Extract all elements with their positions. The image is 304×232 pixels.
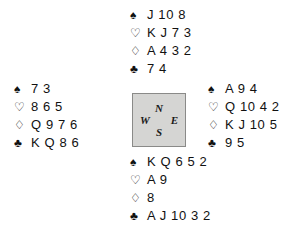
diamond-icon: ♢ — [130, 189, 143, 207]
spade-icon: ♠ — [14, 80, 27, 98]
diamond-icon: ♢ — [208, 116, 221, 134]
heart-icon: ♡ — [208, 98, 221, 116]
north-diamonds-row: ♢ A 4 3 2 — [130, 42, 192, 60]
west-diamonds-cards: Q 9 7 6 — [27, 116, 78, 134]
south-clubs-cards: A J 10 3 2 — [143, 207, 211, 225]
south-diamonds-row: ♢ 8 — [130, 189, 211, 207]
compass-box: N W E S — [132, 93, 186, 147]
west-diamonds-row: ♢ Q 9 7 6 — [14, 116, 79, 134]
south-hearts-cards: A 9 — [143, 171, 168, 189]
east-hearts-row: ♡ Q 10 4 2 — [208, 98, 280, 116]
north-hearts-row: ♡ K J 7 3 — [130, 24, 192, 42]
hand-east: ♠ A 9 4 ♡ Q 10 4 2 ♢ K J 10 5 ♣ 9 5 — [208, 80, 280, 152]
south-clubs-row: ♣ A J 10 3 2 — [130, 207, 211, 225]
compass-north-label: N — [133, 103, 185, 114]
north-clubs-cards: 7 4 — [143, 60, 167, 78]
club-icon: ♣ — [130, 60, 143, 78]
spade-icon: ♠ — [208, 80, 221, 98]
club-icon: ♣ — [130, 207, 143, 225]
south-spades-row: ♠ K Q 6 5 2 — [130, 153, 211, 171]
diamond-icon: ♢ — [14, 116, 27, 134]
hand-south: ♠ K Q 6 5 2 ♡ A 9 ♢ 8 ♣ A J 10 3 2 — [130, 153, 211, 225]
west-clubs-row: ♣ K Q 8 6 — [14, 134, 79, 152]
east-spades-row: ♠ A 9 4 — [208, 80, 280, 98]
west-spades-cards: 7 3 — [27, 80, 51, 98]
west-hearts-row: ♡ 8 6 5 — [14, 98, 79, 116]
compass-south-label: S — [133, 127, 185, 138]
diamond-icon: ♢ — [130, 42, 143, 60]
compass-east-label: E — [171, 115, 178, 126]
south-hearts-row: ♡ A 9 — [130, 171, 211, 189]
club-icon: ♣ — [14, 134, 27, 152]
east-diamonds-cards: K J 10 5 — [221, 116, 278, 134]
north-spades-row: ♠ J 10 8 — [130, 6, 192, 24]
east-spades-cards: A 9 4 — [221, 80, 258, 98]
club-icon: ♣ — [208, 134, 221, 152]
heart-icon: ♡ — [130, 171, 143, 189]
south-spades-cards: K Q 6 5 2 — [143, 153, 207, 171]
hand-north: ♠ J 10 8 ♡ K J 7 3 ♢ A 4 3 2 ♣ 7 4 — [130, 6, 192, 78]
north-spades-cards: J 10 8 — [143, 6, 186, 24]
east-clubs-cards: 9 5 — [221, 134, 245, 152]
heart-icon: ♡ — [14, 98, 27, 116]
north-diamonds-cards: A 4 3 2 — [143, 42, 192, 60]
heart-icon: ♡ — [130, 24, 143, 42]
hand-west: ♠ 7 3 ♡ 8 6 5 ♢ Q 9 7 6 ♣ K Q 8 6 — [14, 80, 79, 152]
east-hearts-cards: Q 10 4 2 — [221, 98, 280, 116]
west-hearts-cards: 8 6 5 — [27, 98, 63, 116]
spade-icon: ♠ — [130, 6, 143, 24]
west-spades-row: ♠ 7 3 — [14, 80, 79, 98]
west-clubs-cards: K Q 8 6 — [27, 134, 79, 152]
north-hearts-cards: K J 7 3 — [143, 24, 192, 42]
north-clubs-row: ♣ 7 4 — [130, 60, 192, 78]
east-diamonds-row: ♢ K J 10 5 — [208, 116, 280, 134]
spade-icon: ♠ — [130, 153, 143, 171]
compass-west-label: W — [140, 115, 150, 126]
east-clubs-row: ♣ 9 5 — [208, 134, 280, 152]
south-diamonds-cards: 8 — [143, 189, 155, 207]
bridge-deal-diagram: ♠ J 10 8 ♡ K J 7 3 ♢ A 4 3 2 ♣ 7 4 ♠ 7 3… — [0, 0, 304, 232]
